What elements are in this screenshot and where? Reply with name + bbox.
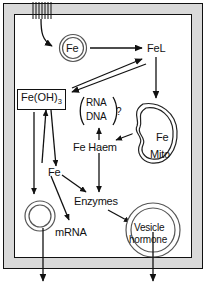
diagram-canvas: Fe FeL Fe(OH)3 RNA DNA ? Fe Haem Fe Mito… [0,0,206,285]
membrane-channel-hatching [33,2,51,19]
edge-uptake-into-cell [41,19,52,46]
node-mrna-label: mRNA [55,226,87,238]
edge-enzymes-to-vesicle [108,210,130,222]
node-mitochondrion-label-mito: Mito [150,148,170,160]
edge-feoh3-to-fe-pool [51,110,56,166]
node-mrna-ring-glyph [25,201,55,231]
node-rna-label: RNA [86,97,107,108]
node-fe-pool-label: Fe [48,166,60,178]
node-vesicle-label-hormone: hormone [129,234,167,245]
node-fe-oh3-subscript: 3 [58,97,62,106]
node-vesicle-label-vesicle: Vesicle [134,222,164,233]
edge-fel-to-feoh3 [72,64,146,92]
edge-fe-pool-to-enzymes [62,175,86,192]
node-fe-oh3-label: Fe(OH) [21,91,58,103]
node-dna-label: DNA [86,111,107,122]
node-rna-dna-query-label: ? [116,106,121,117]
edge-fe-pool-to-feoh3 [42,110,46,163]
node-fel-label: FeL [147,42,165,54]
node-fe-oh3-box: Fe(OH)3 [17,89,66,110]
node-mitochondrion-label-fe: Fe [156,131,168,143]
node-fe-receptor-label: Fe [66,42,78,54]
node-fe-haem-label: Fe Haem [73,141,117,153]
node-enzymes-label: Enzymes [74,195,118,207]
edge-feoh3-to-fel [72,59,142,88]
